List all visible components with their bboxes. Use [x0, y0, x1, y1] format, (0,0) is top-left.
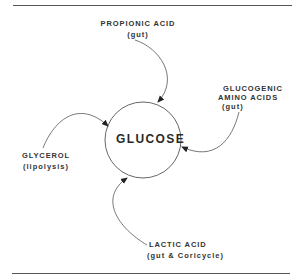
glucose-label: GLUCOSE	[116, 132, 185, 146]
lactic-acid-label: LACTIC ACID (gut & Coricycle)	[147, 240, 227, 260]
amino-acids-name-line2: AMINO ACIDS	[218, 93, 298, 102]
arrow-lactic-acid	[113, 178, 147, 245]
arrow-amino-acids	[182, 112, 239, 152]
arrow-propionic-acid	[135, 40, 167, 102]
propionic-acid-name: PROPIONIC ACID	[96, 19, 180, 28]
glycerol-name: GLYCEROL	[18, 151, 74, 160]
lactic-acid-detail: (gut & Coricycle)	[147, 251, 227, 260]
arrow-glycerol	[43, 113, 108, 148]
amino-acids-detail: (gut)	[218, 102, 298, 111]
amino-acids-label: GLUCOGENIC AMINO ACIDS (gut)	[218, 84, 298, 111]
lactic-acid-name: LACTIC ACID	[147, 240, 227, 249]
propionic-acid-detail: (gut)	[96, 30, 180, 39]
glycerol-label: GLYCEROL (lipolysis)	[18, 151, 74, 171]
glycerol-detail: (lipolysis)	[18, 162, 74, 171]
propionic-acid-label: PROPIONIC ACID (gut)	[96, 19, 180, 39]
amino-acids-name-line1: GLUCOGENIC	[218, 84, 298, 93]
